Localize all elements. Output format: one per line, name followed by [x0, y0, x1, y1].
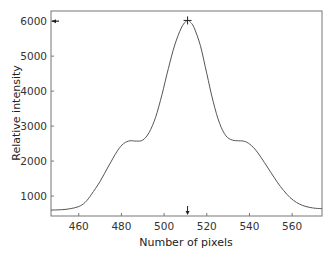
x-tick-label: 520 — [197, 220, 217, 232]
x-tick-label: 500 — [154, 220, 174, 232]
y-tick-label: 6000 — [20, 15, 47, 27]
line-chart: 460480500520540560 100020003000400050006… — [0, 0, 334, 256]
y-axis-title: Relative intensity — [10, 65, 23, 161]
intensity-curve — [51, 20, 322, 210]
x-tick-label: 480 — [111, 220, 131, 232]
arrow-left-head-icon — [52, 19, 56, 23]
y-tick-label: 1000 — [20, 190, 47, 202]
x-tick-label: 460 — [69, 220, 89, 232]
y-tick-label: 2000 — [20, 155, 47, 167]
y-tick-label: 4000 — [20, 85, 47, 97]
x-axis-title: Number of pixels — [139, 236, 233, 249]
x-tick-label: 540 — [239, 220, 259, 232]
y-tick-label: 5000 — [20, 50, 47, 62]
x-tick-label: 560 — [282, 220, 302, 232]
y-axis-ticks: 100020003000400050006000 — [20, 15, 54, 202]
y-tick-label: 3000 — [20, 120, 47, 132]
arrow-down-head-icon — [186, 211, 190, 215]
plot-frame — [51, 11, 322, 216]
annotations — [52, 16, 192, 215]
